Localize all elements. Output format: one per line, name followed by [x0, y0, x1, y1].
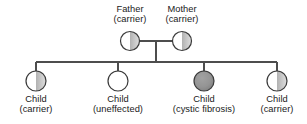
child-3-symbol-circle-filled [194, 71, 214, 91]
pedigree-diagram: Father (carrier) Mother (carrier) Child … [0, 0, 307, 124]
child-4-symbol-circle-half-shaded [267, 71, 287, 91]
connector-lines [36, 41, 277, 72]
child-2-symbol-circle-empty [108, 71, 128, 91]
child-1-symbol-circle-half-shaded [26, 71, 46, 91]
pedigree-graphic [0, 0, 307, 124]
father-symbol-circle-half-shaded [121, 32, 140, 51]
mother-symbol-circle-half-shaded [173, 32, 192, 51]
